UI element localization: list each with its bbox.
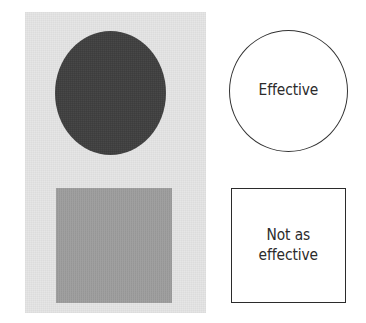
gray-square-swatch — [56, 188, 172, 303]
not-as-effective-square-label: Not as effective — [259, 226, 318, 264]
photo-panel — [25, 12, 206, 313]
effective-circle: Effective — [229, 30, 348, 152]
not-as-effective-square: Not as effective — [231, 188, 346, 303]
figure-root: Effective Not as effective — [0, 0, 366, 323]
dark-circle-swatch — [55, 31, 166, 155]
effective-circle-label: Effective — [259, 81, 319, 100]
